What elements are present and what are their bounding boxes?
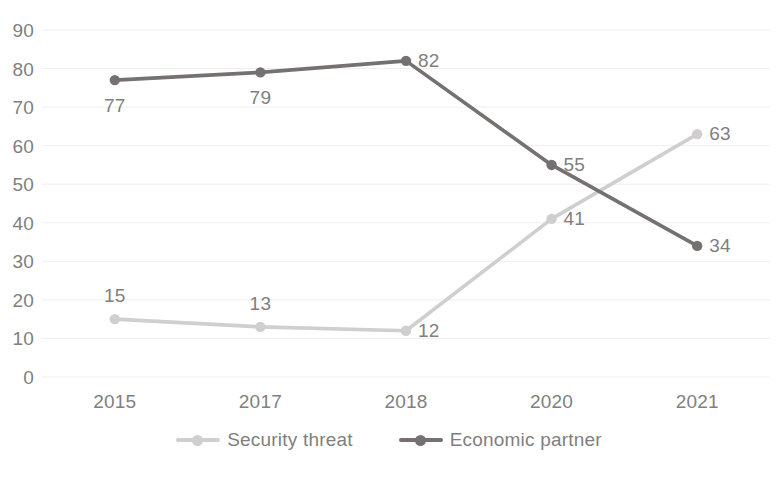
line-chart: 9080706050403020100 20152017201820202021… bbox=[0, 0, 778, 479]
data-point-label: 82 bbox=[418, 51, 440, 70]
gridlines bbox=[42, 30, 770, 377]
data-point-label: 77 bbox=[95, 96, 135, 115]
chart-legend: Security threat Economic partner bbox=[0, 430, 778, 449]
data-point-label: 79 bbox=[240, 88, 280, 107]
series-layer bbox=[110, 56, 703, 336]
y-axis-tick-label: 30 bbox=[0, 252, 34, 271]
data-point[interactable] bbox=[692, 129, 702, 139]
y-axis-tick-label: 10 bbox=[0, 329, 34, 348]
data-point[interactable] bbox=[546, 214, 556, 224]
data-point-label: 63 bbox=[709, 124, 731, 143]
data-point-label: 13 bbox=[240, 294, 280, 313]
series-line-1 bbox=[115, 61, 697, 246]
x-axis-tick-label: 2018 bbox=[356, 392, 456, 411]
data-point[interactable] bbox=[110, 75, 120, 85]
x-axis-tick-label: 2015 bbox=[65, 392, 165, 411]
y-axis-tick-label: 90 bbox=[0, 21, 34, 40]
data-point[interactable] bbox=[692, 241, 702, 251]
data-point[interactable] bbox=[401, 326, 411, 336]
y-axis-tick-label: 20 bbox=[0, 291, 34, 310]
series-line-0 bbox=[115, 134, 697, 331]
data-point-label: 34 bbox=[709, 236, 731, 255]
legend-label-economic-partner: Economic partner bbox=[450, 430, 602, 449]
y-axis-tick-label: 70 bbox=[0, 98, 34, 117]
y-axis-tick-label: 80 bbox=[0, 60, 34, 79]
legend-item-security-threat[interactable]: Security threat bbox=[176, 430, 353, 449]
x-axis-tick-label: 2021 bbox=[647, 392, 747, 411]
data-point[interactable] bbox=[401, 56, 411, 66]
legend-marker-economic-partner bbox=[399, 432, 443, 448]
legend-item-economic-partner[interactable]: Economic partner bbox=[399, 430, 602, 449]
x-axis-tick-label: 2017 bbox=[210, 392, 310, 411]
y-axis-tick-label: 40 bbox=[0, 214, 34, 233]
data-point-label: 15 bbox=[95, 286, 135, 305]
data-point-label: 12 bbox=[418, 321, 440, 340]
data-point[interactable] bbox=[255, 67, 265, 77]
y-axis-tick-label: 0 bbox=[0, 368, 34, 387]
data-point[interactable] bbox=[110, 314, 120, 324]
data-point-label: 55 bbox=[564, 155, 586, 174]
data-point[interactable] bbox=[255, 322, 265, 332]
y-axis-tick-label: 60 bbox=[0, 137, 34, 156]
y-axis-tick-label: 50 bbox=[0, 175, 34, 194]
legend-marker-security-threat bbox=[176, 432, 220, 448]
legend-label-security-threat: Security threat bbox=[227, 430, 353, 449]
data-point-label: 41 bbox=[564, 209, 586, 228]
data-point[interactable] bbox=[546, 160, 556, 170]
x-axis-tick-label: 2020 bbox=[502, 392, 602, 411]
